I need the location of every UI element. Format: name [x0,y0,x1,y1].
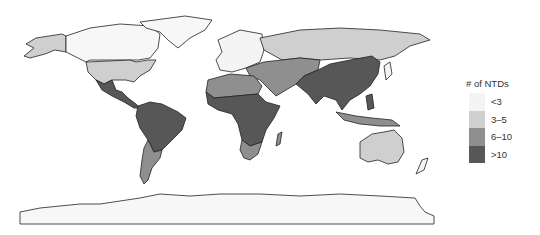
region-south-america-north [136,102,186,152]
region-new-zealand [416,158,428,174]
legend-item: <3 [464,93,540,111]
region-antarctica [20,194,434,224]
legend: # of NTDs <3 3–5 6–10 >10 [464,78,540,163]
legend-item: 3–5 [464,111,540,129]
region-australia [360,130,404,164]
region-sub-saharan-africa [206,92,280,146]
region-japan [384,62,392,80]
legend-title: # of NTDs [466,78,540,89]
legend-item: >10 [464,146,540,164]
region-canada [66,24,160,62]
region-central-america [96,80,140,108]
region-alaska [24,34,66,58]
legend-swatch [469,128,485,146]
legend-swatch [469,146,485,164]
world-map [0,0,440,235]
legend-swatch [469,93,485,111]
legend-label: 3–5 [491,114,507,125]
region-russia [260,28,430,60]
legend-label: 6–10 [491,131,512,142]
region-madagascar [276,132,282,146]
legend-label: <3 [491,96,502,107]
legend-swatch [469,111,485,129]
legend-item: 6–10 [464,128,540,146]
region-indonesia [336,112,400,126]
legend-label: >10 [491,149,507,160]
region-philippines [366,94,374,110]
